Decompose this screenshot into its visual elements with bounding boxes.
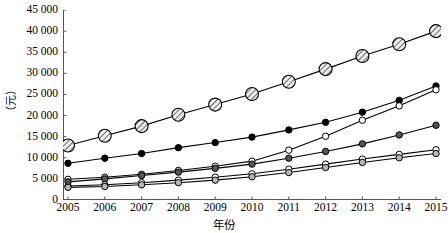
data-point bbox=[138, 182, 144, 188]
data-point bbox=[135, 120, 148, 133]
x-tick-label: 2008 bbox=[167, 202, 190, 214]
data-point bbox=[322, 119, 328, 125]
y-axis-tick-labels: 05 00010 00015 00020 00025 00030 00035 0… bbox=[0, 0, 58, 233]
plot-area bbox=[63, 10, 441, 200]
y-tick-label: 0 bbox=[6, 194, 58, 206]
data-point bbox=[433, 87, 439, 93]
y-tick-label: 45 000 bbox=[6, 4, 58, 16]
data-point bbox=[212, 177, 218, 183]
data-point bbox=[286, 147, 292, 153]
data-point bbox=[359, 117, 365, 123]
x-tick-label: 2011 bbox=[278, 202, 301, 214]
data-point bbox=[319, 63, 332, 76]
data-point bbox=[430, 25, 442, 38]
data-point bbox=[322, 148, 328, 154]
data-point bbox=[98, 129, 111, 142]
data-point bbox=[433, 150, 439, 156]
data-point bbox=[249, 134, 255, 140]
data-point bbox=[138, 150, 144, 156]
series-series-1 bbox=[63, 25, 441, 152]
data-point bbox=[396, 103, 402, 109]
data-point bbox=[249, 174, 255, 180]
x-tick-label: 2007 bbox=[130, 202, 153, 214]
data-point bbox=[249, 161, 255, 167]
series-series-5 bbox=[65, 147, 439, 190]
data-point bbox=[102, 183, 108, 189]
data-point bbox=[63, 139, 75, 152]
data-point bbox=[356, 50, 369, 63]
data-point bbox=[322, 133, 328, 139]
y-tick-label: 30 000 bbox=[6, 68, 58, 80]
data-point bbox=[359, 141, 365, 147]
data-point bbox=[359, 159, 365, 165]
y-tick-label: 5 000 bbox=[6, 173, 58, 185]
x-tick-label: 2006 bbox=[93, 202, 116, 214]
data-point bbox=[138, 172, 144, 178]
y-tick-label: 20 000 bbox=[6, 110, 58, 122]
data-point bbox=[359, 109, 365, 115]
data-point bbox=[175, 144, 181, 150]
x-tick-label: 2013 bbox=[351, 202, 374, 214]
x-tick-label: 2005 bbox=[57, 202, 80, 214]
x-tick-label: 2015 bbox=[425, 202, 448, 214]
y-tick-label: 40 000 bbox=[6, 25, 58, 37]
x-tick-label: 2009 bbox=[204, 202, 227, 214]
data-point bbox=[322, 164, 328, 170]
data-point bbox=[65, 184, 71, 190]
data-point bbox=[212, 165, 218, 171]
series-line bbox=[68, 150, 436, 186]
series-layer bbox=[63, 10, 441, 200]
data-point bbox=[396, 155, 402, 161]
data-point bbox=[433, 122, 439, 128]
data-point bbox=[393, 38, 406, 51]
data-point bbox=[286, 169, 292, 175]
data-point bbox=[282, 75, 295, 88]
data-point bbox=[286, 127, 292, 133]
x-tick-label: 2012 bbox=[314, 202, 337, 214]
x-tick-label: 2014 bbox=[388, 202, 411, 214]
data-point bbox=[175, 169, 181, 175]
data-point bbox=[286, 155, 292, 161]
data-point bbox=[396, 132, 402, 138]
y-tick-label: 15 000 bbox=[6, 131, 58, 143]
data-point bbox=[246, 88, 259, 101]
y-tick-label: 35 000 bbox=[6, 46, 58, 58]
x-axis-title: 年份 bbox=[0, 216, 447, 232]
data-point bbox=[65, 160, 71, 166]
data-point bbox=[172, 108, 185, 121]
data-point bbox=[175, 179, 181, 185]
y-tick-label: 10 000 bbox=[6, 152, 58, 164]
data-point bbox=[212, 139, 218, 145]
x-tick-label: 2010 bbox=[241, 202, 264, 214]
y-tick-label: 25 000 bbox=[6, 89, 58, 101]
data-point bbox=[209, 98, 222, 111]
data-point bbox=[102, 155, 108, 161]
